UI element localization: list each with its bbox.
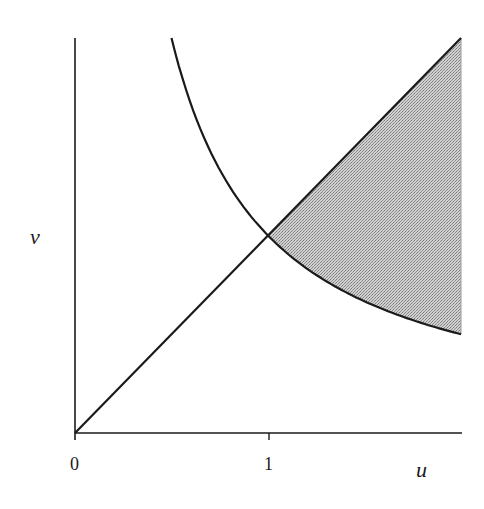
shaded-region: [268, 38, 461, 334]
u-tick-label-1: 1: [264, 454, 273, 474]
uv-region-diagram: v u 0 1: [0, 0, 484, 509]
v-axis-label: v: [30, 224, 40, 249]
u-tick-label-0: 0: [70, 454, 79, 474]
u-axis-label: u: [416, 457, 427, 482]
